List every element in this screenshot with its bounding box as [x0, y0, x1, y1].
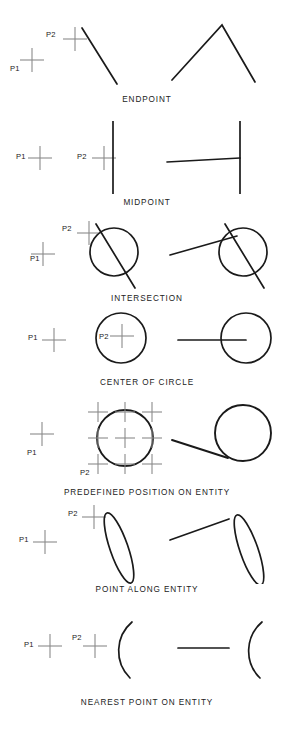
- point-along-entity-figures: P1 P2: [0, 500, 294, 584]
- predefined-right-circle: [215, 405, 271, 461]
- p2-crosshair-icon: [82, 505, 106, 529]
- p1-crosshair-icon: [33, 530, 57, 554]
- point-along-p1-label: P1: [19, 535, 29, 544]
- row-intersection: P1 P2 INTERSECTION: [0, 208, 294, 308]
- p2-crosshair-icon: [83, 634, 107, 658]
- p1-crosshair-icon: [30, 422, 54, 446]
- point-along-left-ellipse: [98, 510, 139, 584]
- midpoint-p1-label: P1: [16, 152, 26, 161]
- p2-crosshair-icon: [110, 324, 134, 348]
- midpoint-figures: P1 P2: [0, 118, 294, 196]
- caption-point-along-entity: POINT ALONG ENTITY: [0, 585, 294, 594]
- row-nearest-point: P1 P2 NEAREST POINT ON ENTITY: [0, 600, 294, 729]
- center-right-circle: [221, 313, 271, 363]
- p2-crosshair-icon: [77, 221, 101, 245]
- p1-crosshair-icon: [42, 328, 66, 352]
- endpoint-right-apex: [172, 25, 255, 82]
- nearest-p1-label: P1: [24, 640, 34, 649]
- row-endpoint: P1 P2 ENDPOINT: [0, 0, 294, 110]
- row-center-of-circle: P1 P2 CENTER OF CIRCLE: [0, 300, 294, 392]
- midpoint-right-horizontal: [167, 158, 240, 162]
- intersection-right-long-line: [170, 236, 237, 255]
- caption-endpoint: ENDPOINT: [0, 95, 294, 104]
- point-along-p2-label: P2: [68, 509, 78, 518]
- predefined-crosshair-grid: [88, 402, 162, 474]
- p1-crosshair-icon: [38, 634, 62, 658]
- row-midpoint: P1 P2 MIDPOINT: [0, 118, 294, 210]
- endpoint-p2-label: P2: [46, 30, 56, 39]
- endpoint-figures: P1 P2: [0, 0, 294, 92]
- midpoint-p2-label: P2: [77, 152, 87, 161]
- caption-nearest-point: NEAREST POINT ON ENTITY: [0, 698, 294, 707]
- diagram-sheet: P1 P2 ENDPOINT: [0, 0, 294, 729]
- nearest-p2-label: P2: [72, 633, 82, 642]
- predefined-position-figures: P1 P2: [0, 392, 294, 488]
- caption-center-of-circle: CENTER OF CIRCLE: [0, 378, 294, 387]
- row-predefined-position: P1 P2 PREDEFINED POSITION ON ENTITY: [0, 392, 294, 502]
- caption-predefined-position: PREDEFINED POSITION ON ENTITY: [0, 488, 294, 497]
- p1-crosshair-icon: [20, 48, 44, 72]
- center-p1-label: P1: [28, 333, 38, 342]
- endpoint-left-line: [82, 28, 117, 84]
- endpoint-p1-label: P1: [10, 64, 20, 73]
- nearest-right-arc: [249, 622, 262, 678]
- intersection-p2-label: P2: [62, 224, 72, 233]
- intersection-p1-label: P1: [30, 254, 40, 263]
- p1-crosshair-icon: [28, 146, 52, 170]
- row-point-along-entity: P1 P2 POINT ALONG ENTITY: [0, 500, 294, 598]
- nearest-left-arc: [119, 622, 132, 678]
- center-p2-label: P2: [99, 332, 109, 341]
- point-along-right-line: [170, 519, 229, 540]
- point-along-right-ellipse: [228, 512, 269, 584]
- caption-midpoint: MIDPOINT: [0, 198, 294, 207]
- nearest-point-figures: P1 P2: [0, 600, 294, 700]
- center-of-circle-figures: P1 P2: [0, 300, 294, 376]
- intersection-figures: P1 P2: [0, 208, 294, 292]
- predefined-p2-label: P2: [80, 468, 90, 477]
- predefined-p1-label: P1: [27, 448, 37, 457]
